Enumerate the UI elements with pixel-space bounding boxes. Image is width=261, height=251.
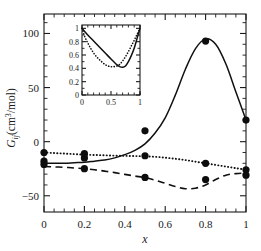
data-point — [141, 127, 148, 134]
x-tick-label: 1 — [243, 218, 249, 230]
inset-x-tick-label: 0.5 — [106, 98, 116, 107]
data-point — [141, 152, 148, 159]
x-tick-label: 0.6 — [158, 218, 172, 230]
svg-text:Gij(cm3/mol): Gij(cm3/mol) — [4, 88, 20, 148]
data-point — [202, 160, 209, 167]
data-point — [242, 172, 249, 179]
inset-y-tick-label: 0 — [75, 91, 79, 100]
inset-x-tick-label: 1 — [138, 98, 142, 107]
figure-container: 00.20.40.60.81100500−50 00.5100.20.40.60… — [0, 0, 261, 251]
y-tick-label: −50 — [22, 190, 40, 202]
inset-y-tick-label: 0.6 — [69, 51, 79, 60]
data-point — [202, 37, 209, 44]
inset-axes: 00.5100.20.40.60.81 — [58, 17, 146, 111]
y-axis-label-unit-tail: /mol) — [5, 88, 18, 113]
data-point — [202, 176, 209, 183]
y-tick-label: 100 — [23, 27, 40, 39]
x-tick-label: 0 — [41, 218, 47, 230]
data-point — [242, 116, 249, 123]
x-tick-label: 0.2 — [78, 218, 92, 230]
data-point — [141, 174, 148, 181]
data-point — [81, 165, 88, 172]
inset-y-tick-label: 1 — [75, 24, 79, 33]
x-tick-label: 0.4 — [118, 218, 132, 230]
x-axis-label: x — [141, 232, 148, 246]
x-tick-label: 0.8 — [199, 218, 213, 230]
y-tick-label: 0 — [34, 136, 40, 148]
inset-y-tick-label: 0.4 — [69, 64, 79, 73]
inset-x-tick-label: 0 — [80, 98, 84, 107]
chart-svg: 00.20.40.60.81100500−50 00.5100.20.40.60… — [0, 0, 261, 251]
y-axis-label-unit: (cm — [5, 117, 18, 135]
data-point — [40, 161, 47, 168]
y-axis-label: Gij(cm3/mol) — [4, 88, 20, 148]
inset-y-tick-label: 0.2 — [69, 78, 79, 87]
y-tick-label: 50 — [28, 82, 40, 94]
inset-y-tick-label: 0.8 — [69, 38, 79, 47]
data-point — [81, 154, 88, 161]
data-point — [40, 149, 47, 156]
